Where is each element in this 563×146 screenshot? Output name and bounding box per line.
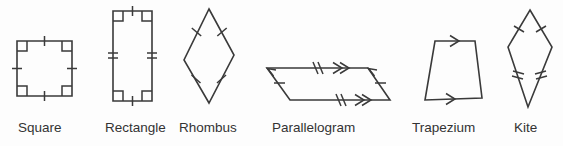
shape-label-rectangle: Rectangle xyxy=(105,120,166,136)
quadrilaterals-diagram: Square Rectangle Rhombus Parallelogram T… xyxy=(0,0,563,146)
kite-single-tick-upper-left xyxy=(514,26,524,32)
kite-single-tick-upper-right xyxy=(536,26,546,32)
shape-label-kite: Kite xyxy=(514,120,537,136)
shape-label-trapezium: Trapezium xyxy=(412,120,475,136)
shape-label-rhombus: Rhombus xyxy=(179,120,237,136)
shape-label-parallelogram: Parallelogram xyxy=(272,120,355,136)
kite-outline xyxy=(508,10,552,107)
shape-label-square: Square xyxy=(18,120,62,136)
